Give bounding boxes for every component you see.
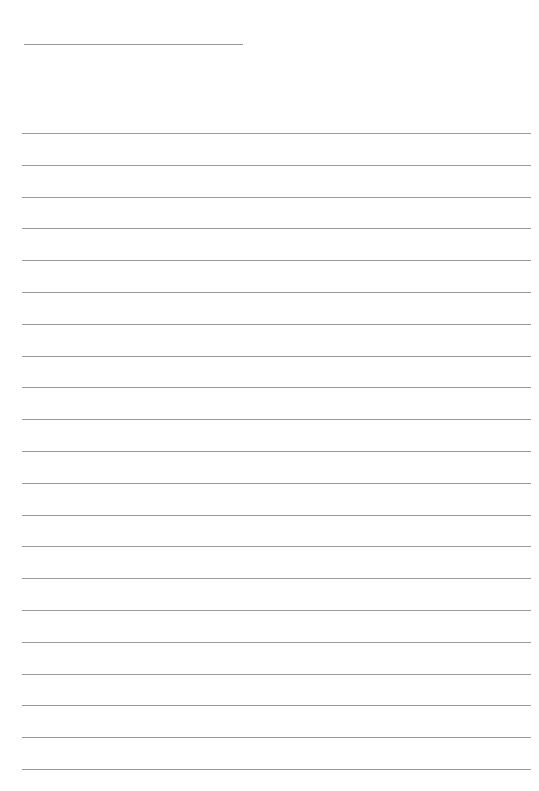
ruled-line xyxy=(22,292,531,293)
ruled-line xyxy=(22,260,531,261)
ruled-line xyxy=(22,769,531,770)
ruled-line xyxy=(22,165,531,166)
ruled-line xyxy=(22,133,531,134)
ruled-line xyxy=(22,546,531,547)
ruled-line xyxy=(22,515,531,516)
ruled-line xyxy=(22,483,531,484)
ruled-line xyxy=(22,737,531,738)
ruled-line xyxy=(22,197,531,198)
header-name-line xyxy=(24,44,243,45)
ruled-line xyxy=(22,705,531,706)
ruled-line xyxy=(22,674,531,675)
ruled-line xyxy=(22,324,531,325)
ruled-line xyxy=(22,451,531,452)
ruled-line xyxy=(22,419,531,420)
ruled-line xyxy=(22,578,531,579)
ruled-line xyxy=(22,387,531,388)
ruled-line xyxy=(22,228,531,229)
ruled-line xyxy=(22,642,531,643)
ruled-line xyxy=(22,610,531,611)
ruled-line xyxy=(22,356,531,357)
